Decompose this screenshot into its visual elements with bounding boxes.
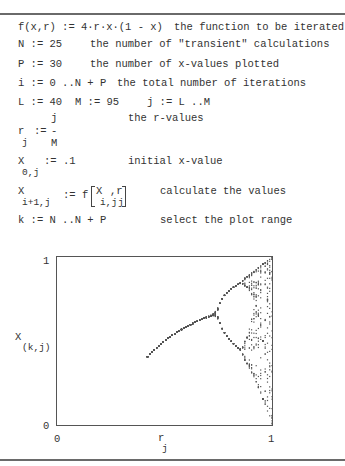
y-tick-min: 0 <box>43 421 49 432</box>
r-numerator: j <box>51 113 57 124</box>
r-subscript: j <box>22 138 28 148</box>
r-assign: := <box>34 126 47 137</box>
xi-arg2: ,r <box>110 186 123 197</box>
y-axis-label-subscript: (k,j) <box>22 343 51 353</box>
p-definition: P := 30 <box>18 59 62 70</box>
f-definition: f(x,r) := 4·r·x·(1 - x) <box>18 22 163 33</box>
y-axis-label: X <box>15 332 21 343</box>
plot-points <box>57 257 272 425</box>
r-denominator: M <box>51 138 57 149</box>
xi-subscript: i+1,j <box>22 198 51 208</box>
x0-assign: := .1 <box>44 156 76 167</box>
right-bracket <box>122 186 126 207</box>
n-comment: the number of "transient" calculations <box>90 39 329 50</box>
r-comment: the r-values <box>128 113 204 124</box>
left-bracket <box>91 186 95 207</box>
x-tick-max: 1 <box>268 434 274 445</box>
xi-lhs: X <box>18 186 24 197</box>
bifurcation-plot <box>56 256 273 426</box>
xi-assign: := f <box>63 190 88 201</box>
xi-comment: calculate the values <box>160 186 286 197</box>
x0-comment: initial x-value <box>128 156 223 167</box>
p-comment: the number of x-values plotted <box>90 59 279 70</box>
i-definition: i := 0 ..N + P <box>18 78 106 89</box>
xi-arg1-subscript: i,j <box>100 198 117 208</box>
n-definition: N := 25 <box>18 39 62 50</box>
f-comment: the function to be iterated <box>174 22 344 33</box>
y-tick-max: 1 <box>43 256 49 267</box>
top-rule <box>0 13 345 15</box>
x0-subscript: 0,j <box>22 168 39 178</box>
bottom-rule <box>0 459 345 461</box>
r-fraction-bar: - <box>51 126 57 137</box>
x-axis-label: r <box>158 433 164 444</box>
l-definition: L := 40 <box>18 97 62 108</box>
x-tick-min: 0 <box>54 434 60 445</box>
j-definition: j := L ..M <box>147 97 210 108</box>
i-comment: the total number of iterations <box>117 78 306 89</box>
xi-arg1: X <box>96 186 102 197</box>
r-lhs: r <box>18 126 24 137</box>
x-axis-label-subscript: j <box>162 444 168 454</box>
m-definition: M := 95 <box>75 97 119 108</box>
k-comment: select the plot range <box>160 215 292 226</box>
x0-lhs: X <box>18 156 24 167</box>
k-definition: k := N ..N + P <box>18 215 106 226</box>
